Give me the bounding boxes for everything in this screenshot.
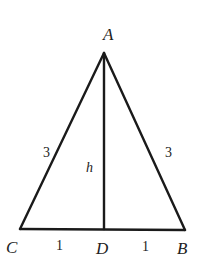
vertex-label-c: C [6, 238, 18, 257]
side-ab [104, 53, 185, 230]
side-label-ab: 3 [165, 145, 172, 160]
vertex-label-b: B [177, 239, 188, 258]
altitude-label-h: h [86, 160, 93, 175]
side-ac [20, 53, 104, 229]
triangle-diagram: A C D B 3 3 h 1 1 [0, 0, 206, 276]
segment-label-cd: 1 [56, 238, 63, 253]
vertex-label-a: A [102, 25, 114, 44]
base-cb [20, 229, 185, 230]
segment-label-db: 1 [142, 239, 149, 254]
vertex-label-d: D [95, 239, 109, 258]
side-label-ac: 3 [43, 145, 50, 160]
